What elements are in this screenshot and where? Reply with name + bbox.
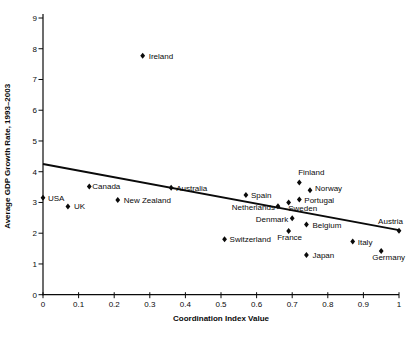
x-tick-label: 0 (41, 300, 46, 309)
data-point-japan (304, 252, 309, 258)
point-label-denmark: Denmark (256, 215, 289, 224)
data-point-finland (297, 179, 302, 185)
scatter-plot: USAUKCanadaNew ZealandIrelandAustraliaSw… (0, 0, 415, 337)
y-axis-title: Average GDP Growth Rate, 1993–2003 (3, 83, 12, 229)
point-label-france: France (277, 233, 302, 242)
data-point-australia (169, 185, 174, 191)
x-tick-label: 0.5 (215, 300, 227, 309)
figure-page: USAUKCanadaNew ZealandIrelandAustraliaSw… (0, 0, 415, 337)
point-label-spain: Spain (251, 191, 271, 200)
point-label-portugal: Portugal (304, 196, 334, 205)
y-tick-label: 5 (33, 137, 38, 146)
data-point-spain (244, 192, 249, 198)
x-tick-label: 0.3 (144, 300, 156, 309)
y-tick-label: 0 (33, 291, 38, 300)
point-label-japan: Japan (312, 251, 334, 260)
y-tick-label: 1 (33, 260, 38, 269)
x-tick-label: 0.7 (287, 300, 299, 309)
x-axis-title: Coordination Index Value (173, 314, 270, 323)
data-point-denmark (290, 215, 295, 221)
point-label-ireland: Ireland (149, 52, 173, 61)
trend-line (43, 164, 399, 230)
data-point-belgium (304, 222, 309, 228)
y-tick-label: 3 (33, 198, 38, 207)
point-label-finland: Finland (298, 168, 324, 177)
point-label-austria: Austria (378, 217, 403, 226)
y-tick-label: 2 (33, 229, 38, 238)
data-point-italy (350, 239, 355, 245)
data-point-norway (308, 187, 313, 193)
data-point-new-zealand (115, 197, 120, 203)
y-tick-label: 9 (33, 14, 38, 23)
point-label-switzerland: Switzerland (230, 235, 271, 244)
x-tick-label: 1 (397, 300, 402, 309)
point-label-germany: Germany (372, 253, 405, 262)
y-tick-label: 4 (33, 168, 38, 177)
point-label-belgium: Belgium (312, 221, 341, 230)
y-tick-label: 6 (33, 106, 38, 115)
point-label-netherlands: Netherlands (232, 203, 275, 212)
x-tick-label: 0.4 (180, 300, 192, 309)
point-label-italy: Italy (358, 238, 373, 247)
point-label-usa: USA (48, 194, 65, 203)
point-label-canada: Canada (92, 182, 121, 191)
data-point-portugal (297, 196, 302, 202)
point-label-uk: UK (74, 202, 86, 211)
data-point-switzerland (222, 236, 227, 242)
y-tick-label: 8 (33, 45, 38, 54)
point-label-new-zealand: New Zealand (124, 196, 171, 205)
data-point-ireland (140, 53, 145, 59)
x-tick-label: 0.9 (358, 300, 370, 309)
x-tick-label: 0.1 (73, 300, 85, 309)
point-label-norway: Norway (315, 184, 342, 193)
y-tick-label: 7 (33, 75, 38, 84)
data-point-austria (397, 228, 402, 234)
x-tick-label: 0.2 (109, 300, 121, 309)
x-tick-label: 0.8 (322, 300, 334, 309)
data-point-uk (66, 203, 71, 209)
data-point-canada (87, 183, 92, 189)
x-tick-label: 0.6 (251, 300, 263, 309)
